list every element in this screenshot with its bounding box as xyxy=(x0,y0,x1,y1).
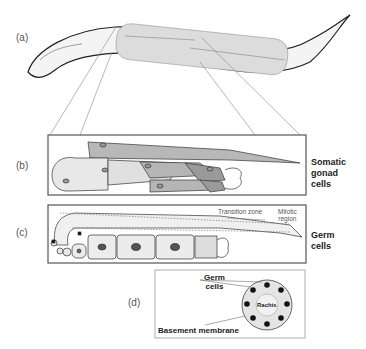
germ-cells-annotation: Germ cells xyxy=(204,273,225,291)
worm-body xyxy=(28,15,350,77)
panel-d-label: (d) xyxy=(128,297,140,308)
panel-c-label: (c) xyxy=(16,227,28,238)
panel-b-label: (b) xyxy=(16,160,28,171)
transition-zone-label: Transition zone xyxy=(218,208,262,215)
basement-membrane-label: Basement membrane xyxy=(158,326,239,335)
panel-a-label: (a) xyxy=(16,32,28,43)
rachis-label: Rachis xyxy=(257,301,277,310)
mitotic-region-label: Mitotic region xyxy=(278,208,297,222)
somatic-gonad-caption: Somatic gonad cells xyxy=(311,157,346,190)
germ-cells-caption: Germ cells xyxy=(311,230,335,252)
